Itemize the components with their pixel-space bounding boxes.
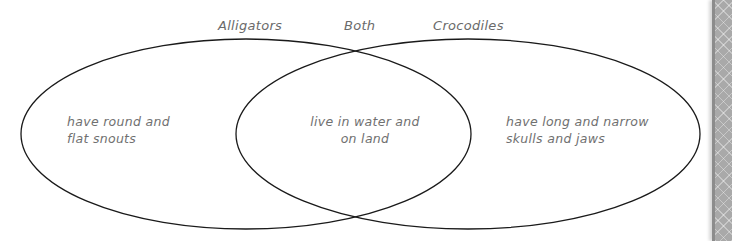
- crocodiles-region-text: have long and narrow skulls and jaws: [506, 113, 649, 147]
- crocodiles-header: Crocodiles: [433, 18, 504, 33]
- page-edge-sidebar: [712, 0, 732, 241]
- both-header: Both: [344, 18, 375, 33]
- both-region-text: live in water and on land: [290, 113, 440, 147]
- venn-diagram: Alligators Both Crocodiles have round an…: [0, 0, 712, 241]
- alligators-region-text: have round and flat snouts: [67, 113, 170, 147]
- alligators-header: Alligators: [218, 18, 282, 33]
